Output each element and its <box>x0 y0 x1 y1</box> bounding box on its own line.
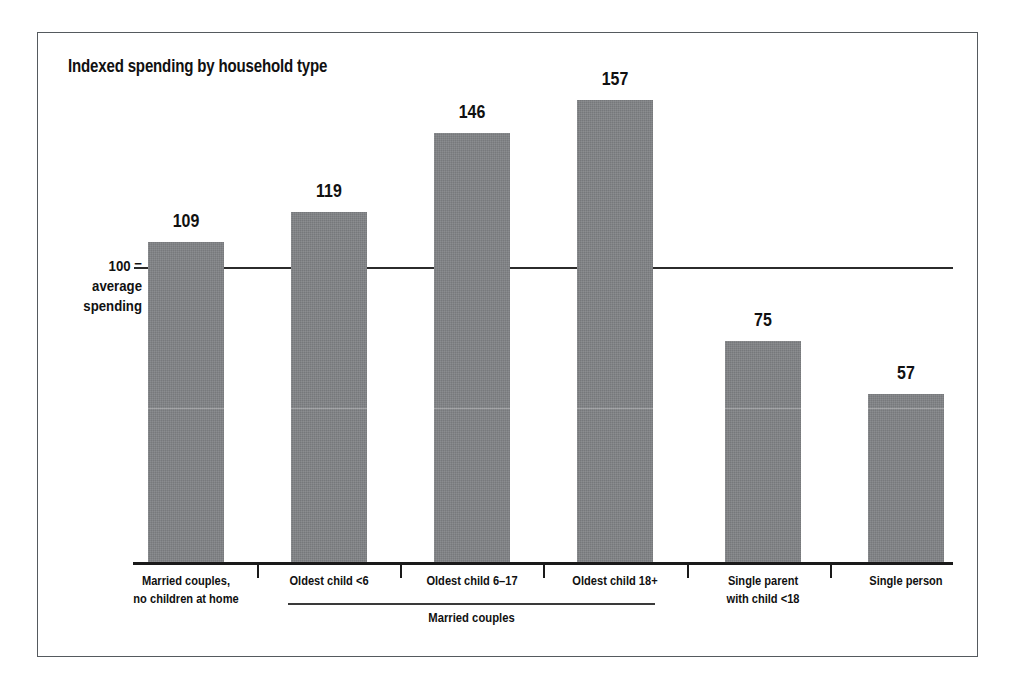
bar <box>291 212 367 562</box>
bar-value-label: 109 <box>148 210 224 232</box>
category-label-line: Oldest child <6 <box>259 573 400 591</box>
reference-line-dash <box>134 267 148 269</box>
plot-area: 100 = average spending 1091191461577557 … <box>0 0 1014 699</box>
category-label: Oldest child 6–17 <box>402 573 543 591</box>
chart-figure: Indexed spending by household type 100 =… <box>0 0 1014 699</box>
category-label: Oldest child <6 <box>259 573 400 591</box>
bar-scan-seam <box>868 408 944 409</box>
axis-tick <box>687 565 689 578</box>
bar-value-label: 119 <box>291 180 367 202</box>
category-label-line: Single parent <box>693 573 834 591</box>
bar <box>148 242 224 562</box>
bar-value-label: 57 <box>868 362 944 384</box>
bar-scan-seam <box>148 408 224 409</box>
bar-scan-seam <box>291 408 367 409</box>
reference-line-annotation: 100 = average spending <box>10 256 142 316</box>
bar-value-label: 157 <box>577 68 653 90</box>
category-label-line: Oldest child 18+ <box>545 573 686 591</box>
reference-note-line-1: 100 = <box>10 256 142 276</box>
group-bracket-rule <box>288 603 655 605</box>
group-bracket-label: Married couples <box>310 610 633 625</box>
bar <box>725 341 801 562</box>
category-label-line: Oldest child 6–17 <box>402 573 543 591</box>
category-label-line: Married couples, <box>116 573 257 591</box>
bar <box>868 394 944 562</box>
bar-scan-seam <box>577 408 653 409</box>
axis-baseline <box>133 562 953 565</box>
reference-line-100 <box>148 267 953 269</box>
category-label-line: with child <18 <box>693 591 834 609</box>
bar-value-label: 75 <box>725 309 801 331</box>
bar <box>434 133 510 562</box>
category-label-line: no children at home <box>116 591 257 609</box>
bar-scan-seam <box>725 408 801 409</box>
category-label: Married couples,no children at home <box>116 573 257 609</box>
reference-note-line-3: spending <box>10 296 142 316</box>
category-label: Single person <box>836 573 977 591</box>
reference-note-line-2: average <box>10 276 142 296</box>
bar-scan-seam <box>434 408 510 409</box>
category-label-line: Single person <box>836 573 977 591</box>
bar <box>577 100 653 562</box>
bar-value-label: 146 <box>434 101 510 123</box>
category-label: Oldest child 18+ <box>545 573 686 591</box>
category-label: Single parentwith child <18 <box>693 573 834 609</box>
